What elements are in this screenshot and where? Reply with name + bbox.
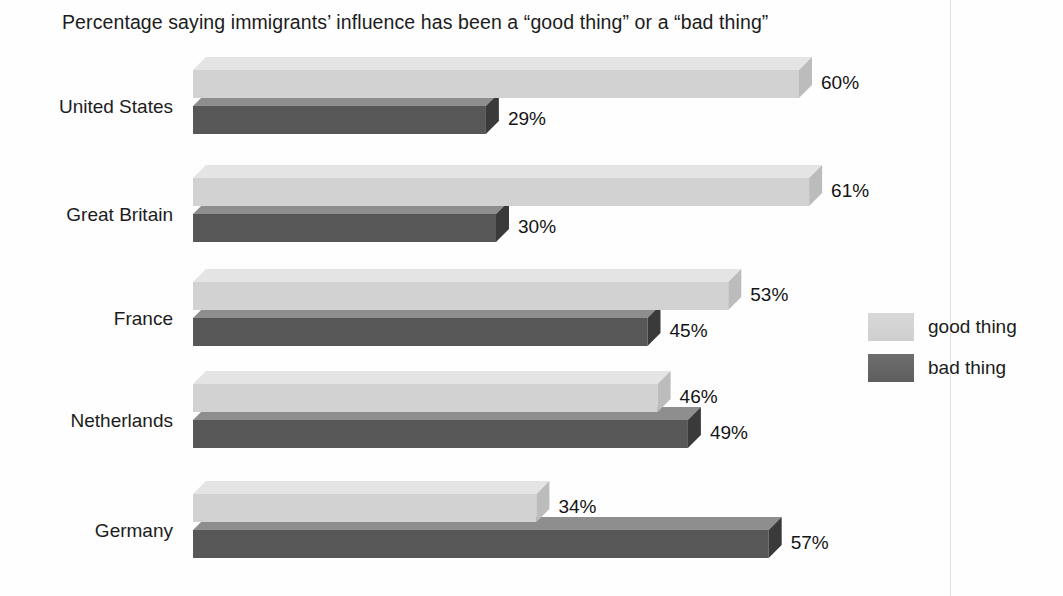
legend-label-good-thing: good thing bbox=[928, 316, 1017, 338]
value-label-bad-thing: 30% bbox=[518, 216, 556, 238]
value-label-bad-thing: 49% bbox=[710, 422, 748, 444]
bar-bad-thing bbox=[193, 407, 701, 448]
category-label: France bbox=[0, 308, 173, 330]
value-label-good-thing: 61% bbox=[831, 180, 869, 202]
bar-bad-thing bbox=[193, 93, 499, 134]
bar-good-thing bbox=[193, 371, 671, 412]
bar-good-thing bbox=[193, 57, 812, 98]
chart-legend: good thing bad thing bbox=[868, 311, 1017, 393]
value-label-bad-thing: 45% bbox=[670, 320, 708, 342]
category-label: Great Britain bbox=[0, 204, 173, 226]
bar-bad-thing bbox=[193, 305, 661, 346]
bar-bad-thing bbox=[193, 201, 509, 242]
bars-layer bbox=[0, 0, 1063, 596]
legend-label-bad-thing: bad thing bbox=[928, 357, 1006, 379]
bar-good-thing bbox=[193, 165, 822, 206]
value-label-good-thing: 53% bbox=[750, 284, 788, 306]
chart-page: Percentage saying immigrants’ influence … bbox=[0, 0, 1063, 596]
legend-item-good-thing: good thing bbox=[868, 311, 1017, 342]
plot-area: United States60%29%Great Britain61%30%Fr… bbox=[0, 0, 1063, 596]
value-label-bad-thing: 29% bbox=[508, 108, 546, 130]
value-label-bad-thing: 57% bbox=[791, 532, 829, 554]
value-label-good-thing: 46% bbox=[680, 386, 718, 408]
category-label: Netherlands bbox=[0, 410, 173, 432]
legend-swatch-bad-thing bbox=[868, 354, 914, 382]
bar-good-thing bbox=[193, 269, 741, 310]
value-label-good-thing: 34% bbox=[558, 496, 596, 518]
value-label-good-thing: 60% bbox=[821, 72, 859, 94]
category-label: Germany bbox=[0, 520, 173, 542]
category-label: United States bbox=[0, 96, 173, 118]
bar-bad-thing bbox=[193, 517, 782, 558]
legend-swatch-good-thing bbox=[868, 313, 914, 341]
legend-item-bad-thing: bad thing bbox=[868, 352, 1017, 383]
bar-good-thing bbox=[193, 481, 549, 522]
